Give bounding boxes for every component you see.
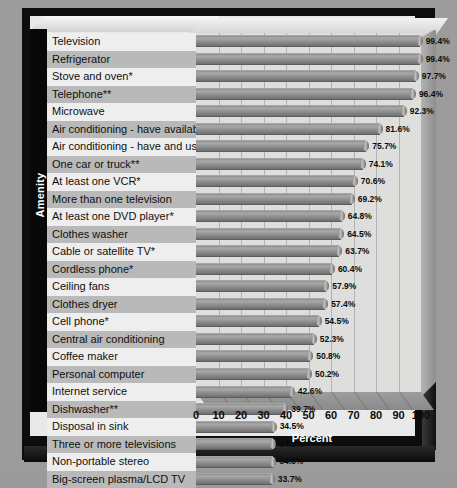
chart-row: Non-portable stereo34.3% bbox=[47, 453, 421, 471]
bar-wrapper: 70.6% bbox=[196, 173, 421, 191]
bar bbox=[196, 210, 342, 222]
bar bbox=[196, 298, 325, 310]
y-axis-band: Amenity bbox=[30, 29, 47, 412]
bar-value-label: 69.2% bbox=[358, 191, 382, 209]
bar-value-label: 60.4% bbox=[338, 261, 362, 279]
bar-value-label: 64.8% bbox=[348, 208, 372, 226]
bar-wrapper: 74.1% bbox=[196, 156, 421, 174]
category-label: Disposal in sink bbox=[47, 418, 196, 436]
bar-wrapper: 57.9% bbox=[196, 278, 421, 296]
chart-row: Clothes dryer57.4% bbox=[47, 296, 421, 314]
x-tick-label: 90 bbox=[392, 409, 404, 421]
category-label: Microwave bbox=[47, 103, 196, 121]
chart-row: Big-screen plasma/LCD TV33.7% bbox=[47, 471, 421, 488]
category-label: Telephone** bbox=[47, 86, 196, 104]
category-label: At least one VCR* bbox=[47, 173, 196, 191]
chart-row: Air conditioning - have available81.6% bbox=[47, 121, 421, 139]
bar bbox=[196, 245, 339, 257]
category-label: Dishwasher** bbox=[47, 401, 196, 419]
y-axis-title: Amenity bbox=[34, 125, 46, 265]
chart-card-top-bevel bbox=[30, 16, 218, 32]
x-axis-title: Percent bbox=[196, 432, 428, 444]
bar-value-label: 99.4% bbox=[426, 51, 450, 69]
category-label: Big-screen plasma/LCD TV bbox=[47, 471, 196, 488]
chart-row: Telephone**96.4% bbox=[47, 86, 421, 104]
category-label: Personal computer bbox=[47, 366, 196, 384]
bar bbox=[196, 158, 363, 170]
chart-row: Coffee maker50.8% bbox=[47, 348, 421, 366]
bar-value-label: 64.5% bbox=[347, 226, 371, 244]
chart-row: Cordless phone*60.4% bbox=[47, 261, 421, 279]
bar-wrapper: 54.5% bbox=[196, 313, 421, 331]
category-label: At least one DVD player* bbox=[47, 208, 196, 226]
bar bbox=[196, 53, 420, 65]
chart-row: Cable or satellite TV*63.7% bbox=[47, 243, 421, 261]
bar-wrapper: 75.7% bbox=[196, 138, 421, 156]
bar-wrapper: 34.3% bbox=[196, 453, 421, 471]
bar bbox=[196, 88, 413, 100]
bar-wrapper: 50.8% bbox=[196, 348, 421, 366]
bar-value-label: 50.2% bbox=[315, 366, 339, 384]
bar-wrapper: 92.3% bbox=[196, 103, 421, 121]
bar-value-label: 75.7% bbox=[372, 138, 396, 156]
chart-row: Air conditioning - have and use75.7% bbox=[47, 138, 421, 156]
category-label: Air conditioning - have available bbox=[47, 121, 196, 139]
bar-wrapper: 50.2% bbox=[196, 366, 421, 384]
category-label: Non-portable stereo bbox=[47, 453, 196, 471]
bar bbox=[196, 105, 404, 117]
bar-value-label: 99.4% bbox=[426, 33, 450, 51]
category-label: Stove and oven* bbox=[47, 68, 196, 86]
bar bbox=[196, 228, 341, 240]
bar bbox=[196, 193, 352, 205]
bar-wrapper: 33.7% bbox=[196, 471, 421, 488]
bar-value-label: 50.8% bbox=[316, 348, 340, 366]
x-axis-ticks: 0102030405060708090100 bbox=[196, 409, 428, 427]
bar-value-label: 63.7% bbox=[345, 243, 369, 261]
x-tick-label: 50 bbox=[302, 409, 314, 421]
bar bbox=[196, 473, 272, 485]
category-label: Refrigerator bbox=[47, 51, 196, 69]
bar bbox=[196, 456, 273, 468]
chart-row: One car or truck**74.1% bbox=[47, 156, 421, 174]
bar-wrapper: 64.8% bbox=[196, 208, 421, 226]
bar-wrapper: 60.4% bbox=[196, 261, 421, 279]
x-tick-label: 30 bbox=[257, 409, 269, 421]
bar bbox=[196, 368, 309, 380]
category-label: Cell phone* bbox=[47, 313, 196, 331]
chart-row: Internet service42.6% bbox=[47, 383, 421, 401]
bar bbox=[196, 333, 314, 345]
category-label: Cordless phone* bbox=[47, 261, 196, 279]
bar bbox=[196, 140, 366, 152]
x-tick-label: 10 bbox=[212, 409, 224, 421]
x-tick-label: 0 bbox=[193, 409, 199, 421]
bar-value-label: 74.1% bbox=[369, 156, 393, 174]
chart-row: Central air conditioning52.3% bbox=[47, 331, 421, 349]
bar-wrapper: 57.4% bbox=[196, 296, 421, 314]
x-tick-label: 80 bbox=[370, 409, 382, 421]
bar bbox=[196, 350, 310, 362]
bar-value-label: 70.6% bbox=[361, 173, 385, 191]
chart-row: More than one television69.2% bbox=[47, 191, 421, 209]
bar-wrapper: 97.7% bbox=[196, 68, 421, 86]
bar-wrapper: 96.4% bbox=[196, 86, 421, 104]
category-label: Cable or satellite TV* bbox=[47, 243, 196, 261]
category-label: Air conditioning - have and use bbox=[47, 138, 196, 156]
category-label: One car or truck** bbox=[47, 156, 196, 174]
bar-value-label: 34.3% bbox=[279, 453, 303, 471]
chart-row: Refrigerator99.4% bbox=[47, 51, 421, 69]
category-label: Three or more televisions bbox=[47, 436, 196, 454]
bar bbox=[196, 280, 326, 292]
category-label: Television bbox=[47, 33, 196, 51]
x-tick-label: 60 bbox=[325, 409, 337, 421]
bar-value-label: 92.3% bbox=[410, 103, 434, 121]
bar-value-label: 42.6% bbox=[298, 383, 322, 401]
bar-wrapper: 52.3% bbox=[196, 331, 421, 349]
bar-wrapper: 64.5% bbox=[196, 226, 421, 244]
bar-value-label: 33.7% bbox=[278, 471, 302, 488]
bar-value-label: 54.5% bbox=[325, 313, 349, 331]
bar-wrapper: 99.4% bbox=[196, 51, 421, 69]
bar bbox=[196, 315, 319, 327]
bar-wrapper: 42.6% bbox=[196, 383, 421, 401]
category-label: Internet service bbox=[47, 383, 196, 401]
